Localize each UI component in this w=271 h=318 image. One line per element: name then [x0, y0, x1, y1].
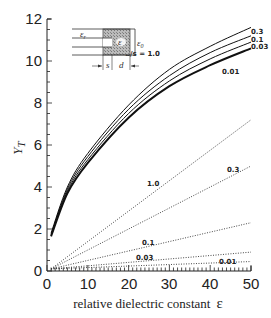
dotted-curve-labels: 1.0 0.3 0.1 0.03 0.01: [136, 166, 240, 266]
y-tick-labels: 0 2 4 6 8 10 12: [25, 10, 42, 279]
dotted-label-0.01: 0.01: [219, 258, 236, 266]
x-tick-labels: 0 10 20 30 40 50: [43, 275, 260, 292]
solid-curve-0.01: [51, 48, 251, 236]
y-tick-4: 4: [34, 178, 42, 195]
inset-d: d: [119, 60, 124, 70]
inset-eps: ε: [118, 37, 122, 47]
x-tick-30: 30: [161, 275, 178, 292]
inset-s: s: [106, 60, 110, 70]
y-tick-12: 12: [25, 10, 42, 27]
x-tick-10: 10: [80, 275, 97, 292]
solid-label-0.3: 0.3: [251, 28, 264, 36]
dotted-label-0.03: 0.03: [136, 254, 153, 262]
gap-cutout: [103, 38, 112, 47]
y-tick-2: 2: [34, 220, 42, 237]
solid-label-0.01: 0.01: [222, 68, 239, 76]
dotted-label-1.0: 1.0: [147, 180, 160, 188]
inset-eps-r: εr: [80, 29, 87, 40]
solid-label-0.03: 0.03: [251, 43, 268, 51]
x-tick-20: 20: [121, 275, 138, 292]
y-axis-title: YT: [10, 140, 27, 154]
y-tick-0: 0: [34, 262, 42, 279]
solid-curve-0.1: [51, 36, 251, 234]
solid-curves: [51, 27, 251, 236]
inset-eps-0: ε0: [137, 38, 144, 49]
solid-curve-0.03: [51, 42, 251, 235]
dotted-label-0.3: 0.3: [227, 166, 240, 174]
x-tick-0: 0: [43, 275, 51, 292]
solid-curve-0.3: [51, 27, 251, 233]
solid-curve-labels: d/s = 1.0 0.3 0.1 0.03 0.01: [125, 28, 268, 76]
y-tick-10: 10: [25, 52, 42, 69]
y-tick-8: 8: [34, 94, 42, 111]
x-tick-50: 50: [243, 275, 260, 292]
dotted-label-0.1: 0.1: [142, 239, 155, 247]
chart: 0 2 4 6 8 10 12 0 10 20 30 40 50 relativ…: [0, 0, 271, 318]
y-tick-6: 6: [34, 136, 42, 153]
x-axis-title: relative dielectric constantε: [73, 295, 222, 311]
x-tick-40: 40: [202, 275, 219, 292]
